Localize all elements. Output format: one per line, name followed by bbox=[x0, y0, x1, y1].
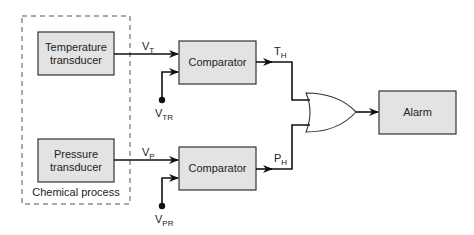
temperature-transducer-label-line1: Temperature bbox=[45, 41, 107, 53]
or-gate bbox=[306, 93, 356, 132]
alarm-block: Alarm bbox=[379, 91, 456, 134]
vpr-wire bbox=[162, 178, 178, 206]
temperature-transducer-label-line2: transducer bbox=[50, 54, 102, 66]
pressure-transducer-block: Pressure transducer bbox=[38, 139, 114, 182]
comparator-bottom-label: Comparator bbox=[188, 162, 246, 174]
ph-label: PH bbox=[274, 152, 287, 167]
vpr-label: VPR bbox=[155, 213, 174, 228]
pressure-transducer-label-line2: transducer bbox=[50, 161, 102, 173]
vtr-label: VTR bbox=[155, 107, 173, 122]
temperature-transducer-block: Temperature transducer bbox=[38, 32, 114, 75]
vp-label: VP bbox=[142, 146, 155, 161]
th-wire bbox=[268, 62, 310, 100]
th-label: TH bbox=[274, 45, 287, 60]
comparator-bottom-block: Comparator bbox=[179, 147, 256, 190]
comparator-top-label: Comparator bbox=[188, 56, 246, 68]
vt-label: VT bbox=[142, 40, 154, 55]
alarm-label: Alarm bbox=[403, 106, 432, 118]
vtr-wire bbox=[162, 72, 178, 100]
comparator-top-block: Comparator bbox=[179, 41, 256, 84]
alarm-system-diagram: Chemical process Temperature transducer … bbox=[0, 0, 474, 235]
chemical-process-label: Chemical process bbox=[32, 186, 120, 198]
pressure-transducer-label-line1: Pressure bbox=[54, 148, 98, 160]
